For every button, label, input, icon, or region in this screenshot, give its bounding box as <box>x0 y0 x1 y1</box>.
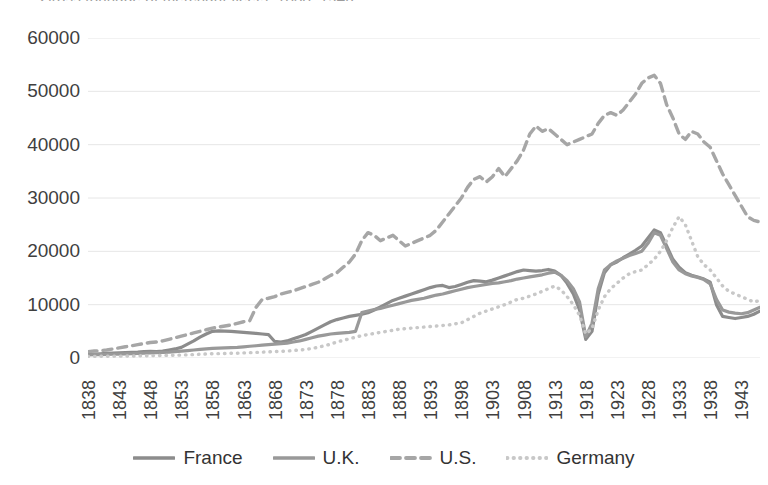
series-line-us <box>88 75 760 351</box>
legend-swatch-germany <box>506 452 548 464</box>
x-axis-tick-label: 1923 <box>608 380 629 420</box>
legend-label: France <box>183 447 242 469</box>
chart-legend: FranceU.K.U.S.Germany <box>0 441 768 475</box>
x-axis-tick-label: 1928 <box>639 380 660 420</box>
x-axis-tick-label: 1863 <box>235 380 256 420</box>
line-chart: Gross tonnage of merchant fleets, 1838–1… <box>0 0 768 485</box>
series-line-france <box>88 230 760 354</box>
plot-area <box>88 38 760 358</box>
y-axis-tick-label: 60000 <box>6 27 80 49</box>
x-axis-tick-label: 1868 <box>266 380 287 420</box>
x-axis-tick-label: 1903 <box>483 380 504 420</box>
x-axis-tick-label: 1893 <box>421 380 442 420</box>
legend-label: U.K. <box>323 447 360 469</box>
legend-item-france[interactable]: France <box>133 447 242 469</box>
legend-item-us[interactable]: U.S. <box>390 447 477 469</box>
x-axis: 1838184318481853185818631868187318781883… <box>88 358 760 428</box>
y-axis-tick-label: 20000 <box>6 240 80 262</box>
x-axis-tick-label: 1888 <box>390 380 411 420</box>
legend-swatch-france <box>133 452 175 464</box>
x-axis-tick-label: 1913 <box>546 380 567 420</box>
series-lines <box>88 75 760 356</box>
gridlines <box>88 38 760 358</box>
x-axis-tick-label: 1878 <box>328 380 349 420</box>
y-axis-tick-label: 0 <box>6 347 80 369</box>
y-axis-tick-label: 30000 <box>6 187 80 209</box>
legend-swatch-us <box>390 452 432 464</box>
x-axis-tick-label: 1918 <box>577 380 598 420</box>
x-axis-tick-label: 1843 <box>110 380 131 420</box>
x-axis-tick-label: 1848 <box>141 380 162 420</box>
chart-title: Gross tonnage of merchant fleets, 1838–1… <box>40 0 354 1</box>
legend-item-germany[interactable]: Germany <box>506 447 634 469</box>
x-axis-tick-label: 1883 <box>359 380 380 420</box>
x-axis-tick-label: 1853 <box>172 380 193 420</box>
x-axis-tick-label: 1898 <box>452 380 473 420</box>
x-axis-tick-label: 1838 <box>79 380 100 420</box>
x-axis-tick-label: 1933 <box>670 380 691 420</box>
x-axis-tick-label: 1943 <box>732 380 753 420</box>
y-axis-tick-label: 50000 <box>6 80 80 102</box>
legend-label: Germany <box>556 447 634 469</box>
legend-swatch-uk <box>273 452 315 464</box>
x-axis-tick-label: 1858 <box>203 380 224 420</box>
y-axis-tick-label: 10000 <box>6 294 80 316</box>
legend-item-uk[interactable]: U.K. <box>273 447 360 469</box>
x-axis-tick-label: 1938 <box>701 380 722 420</box>
y-axis-tick-label: 40000 <box>6 134 80 156</box>
y-axis: 6000050000400003000020000100000 <box>0 0 80 485</box>
x-axis-tick-label: 1873 <box>297 380 318 420</box>
plot-svg <box>88 38 760 358</box>
series-line-germany <box>88 217 760 357</box>
legend-label: U.S. <box>440 447 477 469</box>
x-axis-tick-label: 1908 <box>515 380 536 420</box>
